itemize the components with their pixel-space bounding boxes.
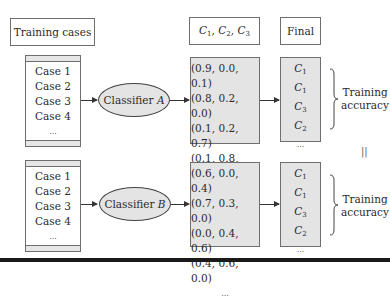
list-item: Case 2: [35, 79, 71, 94]
list-item: C2: [294, 118, 307, 137]
brace-icon: [329, 68, 339, 130]
final-label: Final: [287, 25, 314, 37]
list-item: C1: [294, 61, 307, 80]
list-item: C2: [294, 223, 307, 242]
list-item: (0.9, 0.0, 0.1): [191, 61, 259, 91]
arrow-to-classifier-a: [81, 100, 97, 101]
training-cases-header: Training cases: [10, 18, 95, 46]
list-footer-stripe: [26, 245, 80, 251]
final-box-b: C1 C1 C3 C2 ...: [280, 162, 321, 247]
list-item: Case 1: [35, 64, 71, 79]
equality-symbol: ||: [361, 146, 368, 157]
list-item: Case 4: [35, 214, 71, 229]
training-cases-label: Training cases: [14, 26, 92, 38]
arrow-to-final-b: [260, 204, 279, 205]
brace-icon: [329, 174, 339, 236]
training-accuracy-label-b: Training accuracy: [340, 193, 390, 219]
list-item: ...: [297, 137, 305, 152]
list-item: (0.8, 0.2, 0.0): [191, 91, 259, 121]
list-item: (0.0, 0.4, 0.6): [191, 226, 259, 256]
training-accuracy-label-a: Training accuracy: [340, 86, 390, 112]
final-box-a: C1 C1 C3 C2 ...: [280, 57, 321, 142]
arrow-to-probabilities-b: [171, 204, 189, 205]
final-list: C1 C1 C3 C2 ...: [281, 166, 320, 257]
list-item: ...: [49, 124, 57, 139]
list-item: ...: [221, 286, 229, 300]
probabilities-box-b: (0.6, 0.0, 0.4) (0.7, 0.3, 0.0) (0.0, 0.…: [190, 162, 260, 247]
arrow-to-final-a: [260, 100, 279, 101]
list-item: ...: [297, 242, 305, 257]
list-item: Case 3: [35, 199, 71, 214]
list-item: C1: [294, 185, 307, 204]
arrow-to-classifier-b: [81, 204, 97, 205]
classifier-b: Classifier B: [99, 187, 171, 221]
training-cases-list-a: Case 1 Case 2 Case 3 Case 4 ...: [25, 55, 81, 147]
list-item: (0.7, 0.3, 0.0): [191, 196, 259, 226]
list-item: (0.6, 0.0, 0.4): [191, 166, 259, 196]
list-header-stripe: [26, 161, 80, 167]
list-footer-stripe: [26, 140, 80, 146]
list-item: Case 4: [35, 109, 71, 124]
list-item: ...: [49, 229, 57, 244]
list-item: Case 3: [35, 94, 71, 109]
final-header: Final: [280, 17, 321, 45]
class-probabilities-header: C1, C2, C3: [189, 17, 260, 45]
cases-list: Case 1 Case 2 Case 3 Case 4 ...: [26, 169, 80, 244]
arrow-to-probabilities-a: [170, 100, 189, 101]
bottom-rule: [0, 258, 390, 262]
list-item: C1: [294, 80, 307, 99]
cases-list: Case 1 Case 2 Case 3 Case 4 ...: [26, 64, 80, 139]
list-item: (0.1, 0.2, 0.7): [191, 121, 259, 151]
probabilities-box-a: (0.9, 0.0, 0.1) (0.8, 0.2, 0.0) (0.1, 0.…: [190, 57, 260, 144]
classifier-a: Classifier A: [98, 83, 170, 117]
final-list: C1 C1 C3 C2 ...: [281, 61, 320, 152]
probabilities-list: (0.6, 0.0, 0.4) (0.7, 0.3, 0.0) (0.0, 0.…: [191, 166, 259, 300]
list-item: Case 2: [35, 184, 71, 199]
list-item: Case 1: [35, 169, 71, 184]
classes-label: C1, C2, C3: [199, 24, 250, 38]
list-item: C1: [294, 166, 307, 185]
list-item: C3: [294, 99, 307, 118]
list-header-stripe: [26, 56, 80, 62]
training-cases-list-b: Case 1 Case 2 Case 3 Case 4 ...: [25, 160, 81, 252]
list-item: C3: [294, 204, 307, 223]
